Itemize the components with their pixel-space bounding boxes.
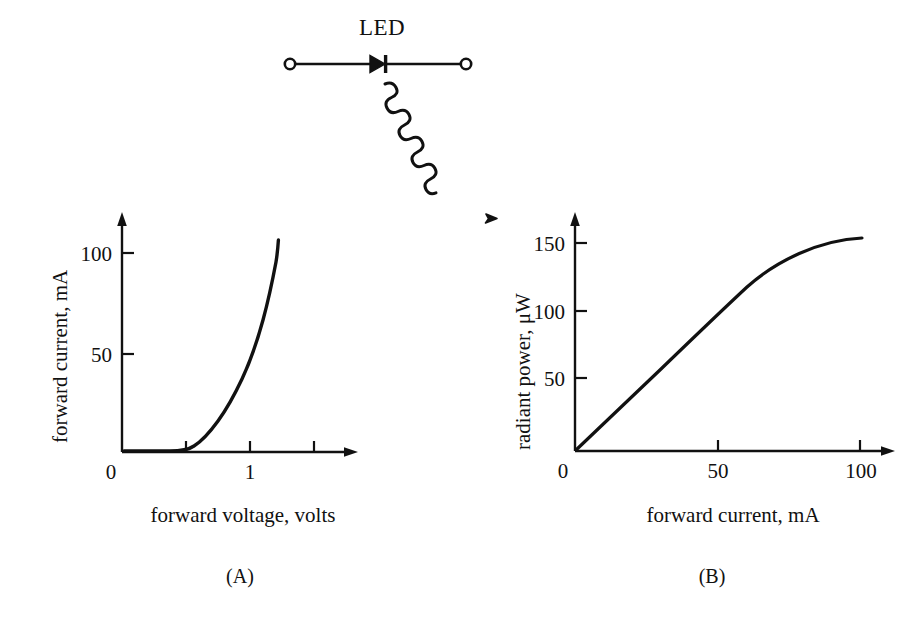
led-characteristics-figure: LED	[0, 0, 923, 623]
panel-b-plot	[0, 0, 923, 623]
panel-b-x-tick-label-50: 50	[708, 461, 729, 482]
panel-b-x-tick-label-0: 0	[558, 461, 569, 482]
panel-b-helper	[576, 239, 862, 450]
panel-b-y-tick-label-150: 150	[534, 234, 566, 255]
panel-b-y-axis-title: radiant power, μW	[513, 293, 534, 450]
panel-b-power-curve	[576, 238, 862, 450]
panel-b-x-axis-title: forward current, mA	[646, 505, 819, 526]
panel-b-y-axis-arrowhead-icon	[570, 212, 580, 226]
panel-b-y-tick-label-100: 100	[534, 302, 566, 323]
panel-b-x-axis-arrowhead-icon	[881, 446, 895, 456]
panel-b-caption: (B)	[699, 566, 726, 586]
panel-b-x-tick-label-100: 100	[845, 461, 877, 482]
panel-b-y-tick-label-50: 50	[544, 369, 565, 390]
